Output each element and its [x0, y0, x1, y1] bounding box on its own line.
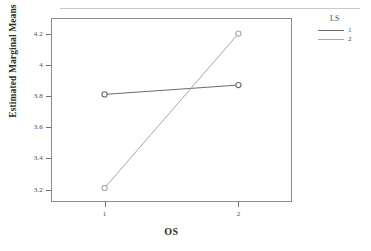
y-axis-tick-label: 3.4	[13, 154, 43, 162]
legend-line-swatch	[318, 30, 344, 31]
plot-data-layer	[51, 18, 292, 202]
legend-entry: 2	[318, 35, 368, 44]
data-series	[102, 82, 241, 97]
y-axis-tick-label: 4	[13, 61, 43, 69]
y-axis-tick-label: 3.2	[13, 186, 43, 194]
legend-entry: 1	[318, 26, 368, 35]
legend-entry-list: 12	[318, 26, 368, 44]
series-line	[105, 34, 239, 188]
profile-plot-figure: Estimated Marginal Means 4.243.83.63.43.…	[0, 0, 371, 251]
legend-entry-label: 2	[348, 35, 352, 44]
x-axis-tick-mark	[238, 202, 239, 207]
legend-entry-label: 1	[348, 26, 352, 35]
data-point-marker	[102, 92, 107, 97]
legend-line-swatch	[318, 39, 344, 40]
x-axis-tick-label: 2	[228, 210, 248, 218]
x-axis-title: OS	[51, 226, 292, 237]
data-point-marker	[236, 82, 241, 87]
x-axis-tick-label: 1	[95, 210, 115, 218]
legend: LS 12	[318, 14, 368, 44]
legend-title: LS	[318, 14, 368, 23]
x-axis-tick-mark	[105, 202, 106, 207]
series-line	[105, 85, 239, 94]
top-divider-rule	[60, 8, 360, 9]
y-axis-tick-label: 4.2	[13, 30, 43, 38]
y-axis-tick-label: 3.8	[13, 92, 43, 100]
data-point-marker	[236, 31, 241, 36]
data-point-marker	[102, 185, 107, 190]
y-axis-tick-label: 3.6	[13, 123, 43, 131]
data-series	[102, 31, 241, 191]
